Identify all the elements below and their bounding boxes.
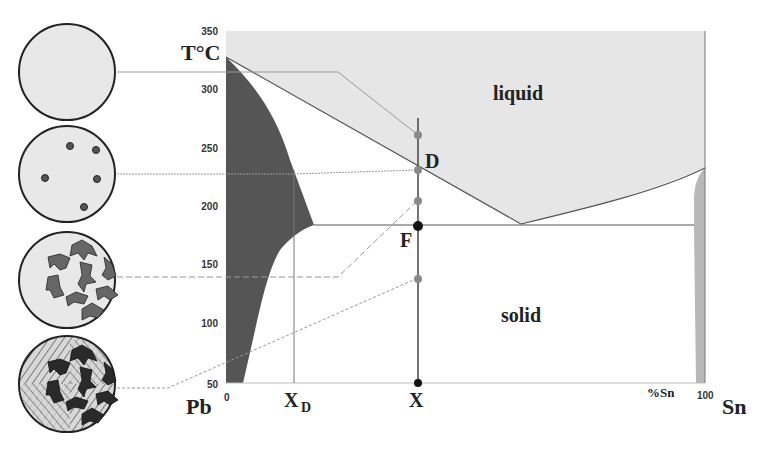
x-unit-label: %Sn — [647, 385, 675, 400]
y-tick-100: 100 — [201, 318, 218, 329]
marker-d — [414, 166, 422, 174]
liquid-label: liquid — [493, 82, 543, 105]
marker-f — [413, 221, 423, 231]
pb-label: Pb — [186, 394, 212, 419]
marker-x — [414, 379, 422, 387]
point-x-label: X — [409, 389, 424, 411]
point-f-label: F — [400, 229, 412, 251]
y-tick-250: 250 — [201, 143, 218, 154]
phase-diagram: 350 300 250 200 150 100 50 T°C 0 100 %Sn… — [0, 0, 783, 451]
marker-liquid — [414, 131, 422, 139]
y-tick-200: 200 — [201, 201, 218, 212]
sn-label: Sn — [722, 394, 746, 419]
connector-4 — [117, 278, 418, 388]
marker-dendrite — [414, 197, 422, 205]
microstructure-liquid — [19, 24, 115, 120]
microstructure-nuclei — [19, 126, 115, 222]
point-d-label: D — [425, 150, 439, 172]
xd-subscript: D — [301, 400, 311, 415]
x-tick-100: 100 — [697, 390, 714, 401]
marker-solid — [414, 275, 422, 283]
y-tick-350: 350 — [201, 26, 218, 37]
alpha-region — [226, 57, 314, 383]
y-tick-300: 300 — [201, 84, 218, 95]
x-tick-0: 0 — [224, 392, 230, 403]
solid-label: solid — [501, 304, 541, 326]
microstructure-dendrites — [19, 232, 118, 328]
xd-label: X — [284, 389, 299, 411]
y-tick-150: 150 — [201, 259, 218, 270]
microstructure-eutectic — [19, 336, 120, 434]
y-axis-label: T°C — [181, 40, 220, 65]
beta-region — [694, 168, 705, 383]
y-tick-50: 50 — [207, 379, 219, 390]
